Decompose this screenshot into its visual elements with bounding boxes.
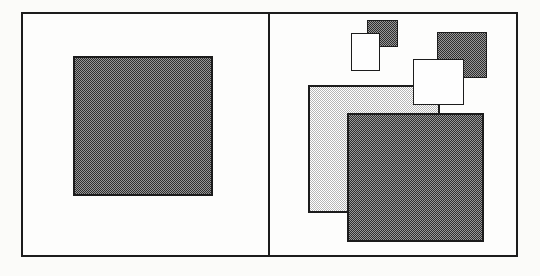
white-square-medium [413,59,464,105]
panel-divider [268,12,270,257]
figure-canvas [0,0,540,276]
white-square-small [351,33,380,71]
shaded-square-large-left [73,56,213,196]
shaded-square-xlarge [347,113,484,242]
